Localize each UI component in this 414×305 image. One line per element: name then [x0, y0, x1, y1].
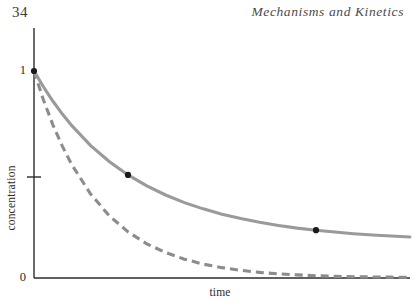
curves-group [34, 71, 410, 277]
y-axis-title: concentration [5, 143, 17, 253]
data-point-marker [125, 172, 131, 178]
y-tick-label-one: 1 [8, 63, 26, 78]
y-tick-label-zero: 0 [8, 270, 26, 285]
book-page: 34 Mechanisms and Kinetics 1 0 concentra… [0, 0, 414, 305]
data-point-marker [313, 227, 319, 233]
data-point-markers [31, 68, 319, 233]
figure-plot: 1 0 concentration time [0, 0, 414, 305]
solid-decay-curve [34, 71, 410, 237]
x-axis-title: time [170, 286, 270, 298]
dashed-decay-curve [34, 71, 410, 277]
decay-curve-chart [0, 0, 414, 305]
axes-group [27, 28, 410, 278]
data-point-marker [31, 68, 37, 74]
